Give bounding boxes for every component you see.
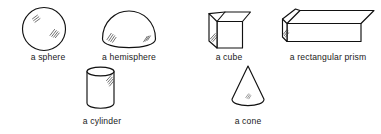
cube-icon (204, 8, 256, 54)
cylinder-figure (78, 65, 126, 113)
rectangular-prism-figure (281, 7, 377, 53)
cylinder-label: a cylinder (62, 117, 142, 126)
sphere-label: a sphere (8, 53, 88, 62)
cube-label: a cube (198, 53, 260, 62)
hemisphere-label: a hemisphere (88, 53, 170, 62)
hemisphere-figure (98, 8, 160, 53)
solids-diagram: a sphere a hemisphere (0, 0, 381, 134)
cone-icon (218, 63, 278, 111)
cone-figure (218, 63, 278, 111)
hemisphere-icon (98, 8, 160, 53)
sphere-icon (20, 5, 76, 53)
rectangular-prism-icon (281, 7, 377, 53)
sphere-figure (20, 5, 76, 53)
cone-label: a cone (218, 117, 278, 126)
cube-figure (204, 8, 256, 54)
rectangular-prism-label: a rectangular prism (275, 53, 381, 62)
cylinder-icon (78, 65, 126, 113)
